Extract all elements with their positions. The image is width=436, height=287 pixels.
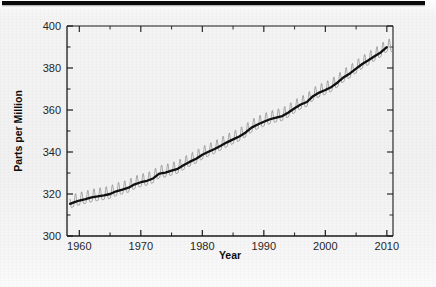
- x-tick-label: 1980: [190, 240, 214, 252]
- plot-frame: [67, 26, 393, 236]
- y-axis-tick-labels: 300320340360380400: [43, 20, 61, 242]
- y-tick-label: 300: [43, 230, 61, 242]
- x-tick-label: 1970: [129, 240, 153, 252]
- y-axis-title: Parts per Million: [12, 90, 24, 172]
- keeling-curve-chart: 300320340360380400 196019701980199020002…: [0, 8, 436, 287]
- y-tick-label: 400: [43, 20, 61, 32]
- y-axis-ticks: [67, 26, 393, 236]
- y-tick-label: 320: [43, 188, 61, 200]
- y-tick-label: 360: [43, 104, 61, 116]
- figure-container: 300320340360380400 196019701980199020002…: [0, 8, 436, 287]
- scanned-page: 300320340360380400 196019701980199020002…: [0, 0, 436, 287]
- y-tick-label: 380: [43, 62, 61, 74]
- series-smoothed-trend: [70, 47, 387, 204]
- x-axis-title: Year: [219, 249, 241, 261]
- y-tick-label: 340: [43, 146, 61, 158]
- x-tick-label: 1960: [67, 240, 91, 252]
- page-top-rule-shadow: [2, 5, 425, 7]
- x-tick-label: 2000: [313, 240, 337, 252]
- x-tick-label: 1990: [252, 240, 276, 252]
- series-monthly-seasonal: [70, 39, 392, 208]
- x-tick-label: 2010: [375, 240, 399, 252]
- x-axis-ticks: [79, 26, 387, 236]
